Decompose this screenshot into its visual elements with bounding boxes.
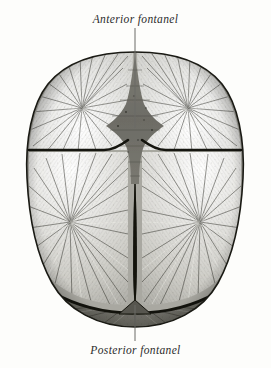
anterior-fontanel-label: Anterior fontanel: [0, 13, 271, 25]
skull-illustration: [0, 0, 271, 368]
anatomical-plate: Anterior fontanel Posterior fontanel: [0, 0, 271, 368]
posterior-fontanel-label: Posterior fontanel: [0, 344, 271, 356]
